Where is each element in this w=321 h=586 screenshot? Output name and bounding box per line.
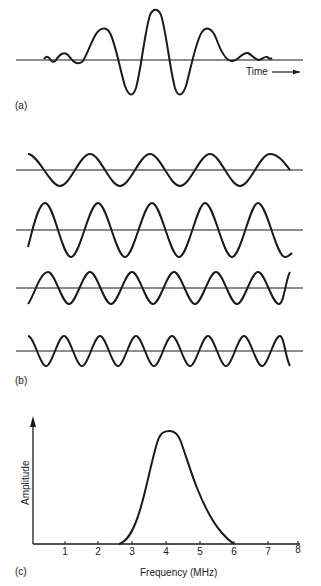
- x-tick-label: 6: [231, 547, 237, 557]
- x-tick-label: 2: [95, 547, 101, 557]
- x-tick-label: 4: [163, 547, 169, 557]
- y-axis-label: Amplitude: [20, 461, 31, 505]
- spectrum-curve: [119, 431, 234, 544]
- panel-b-label: (b): [15, 376, 27, 386]
- panel-c-spectrum: [30, 416, 300, 544]
- time-axis-label: Time: [246, 67, 268, 77]
- x-tick-label: 3: [129, 547, 135, 557]
- y-axis-arrow-icon: [30, 416, 36, 427]
- time-arrow-head-icon: [293, 70, 300, 75]
- panel-a-pulse: [16, 10, 303, 95]
- figure-canvas: [0, 0, 321, 586]
- pulse-waveform: [44, 10, 272, 95]
- x-tick-label: 8: [295, 545, 301, 555]
- panel-c-label: (c): [15, 567, 27, 577]
- panel-b-components: [16, 154, 303, 366]
- x-axis-label: Frequency (MHz): [140, 568, 217, 578]
- x-tick-label: 5: [197, 547, 203, 557]
- x-tick-label: 7: [265, 547, 271, 557]
- panel-a-label: (a): [15, 101, 27, 111]
- x-tick-label: 1: [62, 547, 68, 557]
